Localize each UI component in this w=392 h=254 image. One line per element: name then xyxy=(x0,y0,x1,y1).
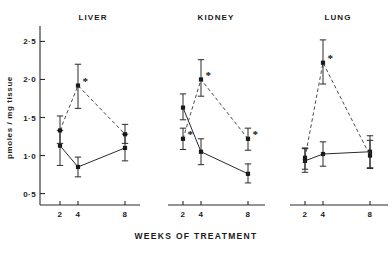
data-point xyxy=(246,172,250,176)
y-tick-label: 2·0 xyxy=(23,75,36,84)
significance-asterisk: * xyxy=(83,75,89,87)
panel-lung: LUNG248* xyxy=(290,13,388,219)
x-tick-label: 2 xyxy=(181,210,186,219)
panel-title-kidney: KIDNEY xyxy=(198,13,235,22)
data-point xyxy=(76,165,80,169)
multi-panel-line-chart: 0·51·01·52·02·5pmoles / mg tissueLIVER24… xyxy=(0,0,392,254)
data-point xyxy=(123,146,127,150)
panel-liver: LIVER248* xyxy=(40,13,140,219)
data-point xyxy=(321,61,325,65)
x-tick-label: 4 xyxy=(199,210,204,219)
x-axis-title: WEEKS OF TREATMENT xyxy=(135,231,258,241)
x-tick-label: 2 xyxy=(303,210,308,219)
significance-asterisk: * xyxy=(206,69,212,81)
x-tick-label: 8 xyxy=(246,210,251,219)
data-point xyxy=(199,77,203,81)
data-point xyxy=(181,106,185,110)
data-point xyxy=(246,137,250,141)
y-axis: 0·51·01·52·02·5 xyxy=(23,26,45,205)
series-line-treated xyxy=(60,86,125,135)
significance-asterisk: * xyxy=(253,128,259,140)
data-point xyxy=(123,132,127,136)
data-point xyxy=(76,83,80,87)
y-axis-title: pmoles / mg tissue xyxy=(5,76,14,159)
y-tick-label: 0·5 xyxy=(23,190,36,199)
x-tick-label: 2 xyxy=(58,210,63,219)
x-tick-label: 8 xyxy=(368,210,373,219)
series-line-treated xyxy=(305,63,370,158)
data-point xyxy=(303,156,307,160)
figure-container: 0·51·01·52·02·5pmoles / mg tissueLIVER24… xyxy=(0,0,392,254)
significance-asterisk: * xyxy=(328,52,334,64)
data-point xyxy=(181,137,185,141)
series-line-control xyxy=(305,152,370,161)
series-line-control xyxy=(183,108,248,174)
series-line-control xyxy=(60,146,125,167)
data-point xyxy=(368,153,372,157)
x-tick-label: 4 xyxy=(321,210,326,219)
data-point xyxy=(58,128,62,132)
significance-asterisk: * xyxy=(188,128,194,140)
panel-kidney: KIDNEY248*** xyxy=(168,13,265,219)
y-tick-label: 2·5 xyxy=(23,37,36,46)
x-tick-label: 4 xyxy=(76,210,81,219)
data-point xyxy=(321,152,325,156)
x-tick-label: 8 xyxy=(123,210,128,219)
panel-title-liver: LIVER xyxy=(78,13,107,22)
y-tick-label: 1·5 xyxy=(23,114,36,123)
data-point xyxy=(199,150,203,154)
panel-title-lung: LUNG xyxy=(324,13,351,22)
data-point xyxy=(58,144,62,148)
y-tick-label: 1·0 xyxy=(23,152,36,161)
